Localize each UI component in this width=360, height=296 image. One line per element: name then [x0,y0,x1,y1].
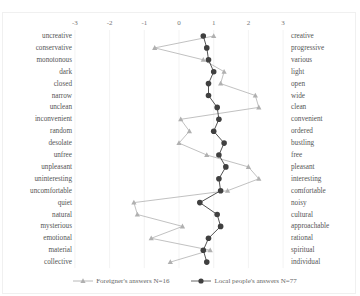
circle-marker-icon [206,93,212,99]
circle-marker-icon [216,117,222,123]
circle-marker-icon [221,140,227,146]
circle-marker-icon [204,259,210,265]
triangle-marker-icon [256,105,261,110]
circle-marker-icon [197,200,203,206]
triangle-marker-icon [135,212,140,217]
circle-marker-icon [214,212,220,218]
circle-marker-icon [200,247,206,253]
triangle-marker-icon [204,152,209,157]
circle-marker-icon [206,81,212,87]
circle-marker-icon [218,224,224,230]
circle-marker-icon [211,128,217,134]
legend-label-foreigner: Foreigner's answers N=16 [96,277,169,285]
legend-item-local: Local people's answers N=77 [191,277,296,285]
legend-item-foreigner: Foreigner's answers N=16 [73,277,169,285]
triangle-marker-icon [222,69,227,74]
circle-marker-icon [214,105,220,111]
foreigner-series-line [134,36,259,262]
circle-marker-icon [200,33,206,39]
plot-area [0,0,360,296]
circle-marker-icon [191,277,211,285]
circle-marker-icon [216,176,222,182]
legend-label-local: Local people's answers N=77 [214,277,296,285]
circle-marker-icon [218,188,224,194]
triangle-marker-icon [211,33,216,38]
circle-marker-icon [204,45,210,51]
circle-marker-icon [216,152,222,158]
semantic-differential-chart: -3-2-10123 uncreativeconservativemonoton… [0,0,360,296]
circle-marker-icon [206,236,212,242]
triangle-marker-icon [73,277,93,285]
circle-marker-icon [223,164,229,170]
triangle-marker-icon [218,81,223,86]
legend: Foreigner's answers N=16 Local people's … [60,274,310,288]
circle-marker-icon [206,57,212,63]
circle-marker-icon [211,69,217,75]
